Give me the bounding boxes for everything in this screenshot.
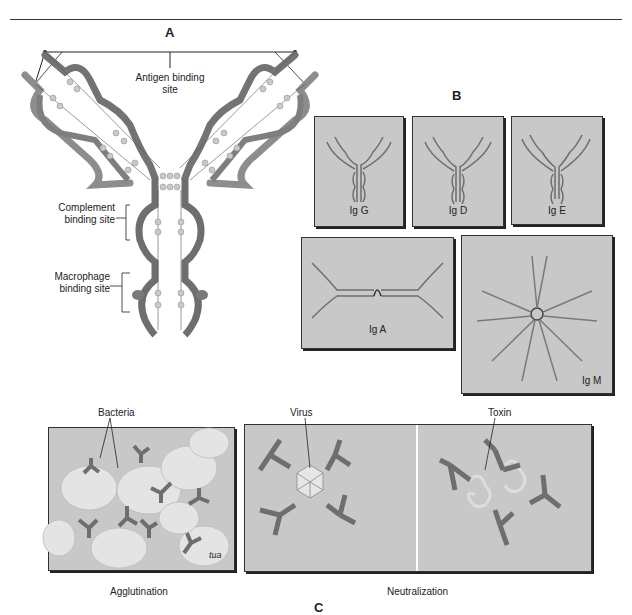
agglutination-illustration [49,428,234,570]
igm-pentamer-icon [462,236,612,393]
agglutination-box: tua [48,427,235,571]
iga-label: Ig A [302,324,453,335]
ige-label: Ig E [512,205,602,216]
neutralization-box [244,424,592,572]
complement-binding-site-label: Complement binding site [45,202,115,226]
igd-label: Ig D [413,205,503,216]
neutralization-caption: Neutralization [387,586,448,597]
iga-box: Ig A [301,237,454,349]
macrophage-binding-site-label: Macrophage binding site [40,271,110,295]
igm-label: Ig M [582,375,601,386]
panel-b-letter: B [452,88,461,103]
antigen-binding-site-label: Antigen binding site [130,72,210,96]
igd-box: Ig D [412,116,504,227]
bacteria-label: Bacteria [98,407,135,419]
neutralization-illustration [245,425,591,571]
igg-label: Ig G [315,205,403,216]
panel-c-letter: C [314,600,323,615]
igm-box: Ig M [461,235,613,394]
ige-box: Ig E [511,116,603,225]
toxin-label: Toxin [488,407,511,419]
agglutination-caption: Agglutination [110,586,168,597]
artist-signature: tua [209,550,222,560]
virus-label: Virus [290,407,313,419]
igg-box: Ig G [314,116,404,227]
